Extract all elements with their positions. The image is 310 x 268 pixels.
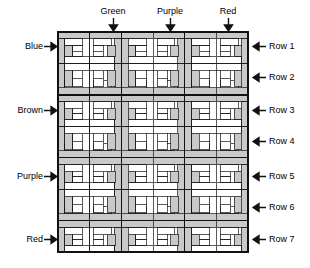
arrow-right-icon (44, 41, 58, 52)
arrow-down-icon (108, 18, 119, 32)
left-label-purple: Purple (0, 171, 43, 181)
arrow-down-icon (223, 18, 234, 32)
right-label-row-5: Row 5 (269, 171, 295, 181)
arrow-left-icon (253, 202, 267, 213)
arrow-left-icon (253, 136, 267, 147)
arrow-left-icon (253, 72, 267, 83)
top-label-red: Red (188, 6, 268, 16)
arrow-left-icon (253, 105, 267, 116)
left-label-blue: Blue (0, 41, 43, 51)
arrow-right-icon (44, 234, 58, 245)
arrow-left-icon (253, 41, 267, 52)
left-label-red: Red (0, 234, 43, 244)
left-label-brown: Brown (0, 105, 43, 115)
arrow-left-icon (253, 171, 267, 182)
right-label-row-2: Row 2 (269, 72, 295, 82)
arrow-down-icon (165, 18, 176, 32)
right-label-row-7: Row 7 (269, 234, 295, 244)
arrow-right-icon (44, 105, 58, 116)
diagram-root: GreenPurpleRed BlueBrownPurpleRed Row 1R… (0, 0, 310, 268)
quilt-pattern (58, 32, 248, 252)
arrow-right-icon (44, 171, 58, 182)
right-label-row-3: Row 3 (269, 105, 295, 115)
quilt-grid (57, 31, 249, 253)
right-label-row-6: Row 6 (269, 202, 295, 212)
arrow-left-icon (253, 234, 267, 245)
right-label-row-4: Row 4 (269, 136, 295, 146)
right-label-row-1: Row 1 (269, 41, 295, 51)
